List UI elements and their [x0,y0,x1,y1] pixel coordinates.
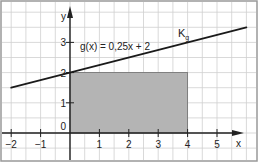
y-tick-label: 0 [60,121,66,132]
y-tick-label: 1 [60,98,66,109]
y-tick-label: 3 [60,37,66,48]
shaded-rectangle [70,73,188,133]
x-tick-label: 2 [126,139,132,150]
x-tick-label: 5 [214,139,220,150]
y-tick-label: 2 [60,68,66,79]
x-tick-label: 4 [185,139,191,150]
x-axis-label: x [236,138,241,149]
x-tick-label: −1 [35,139,47,150]
function-label: g(x) = 0,25x + 2 [80,41,150,52]
x-tick-label: 1 [97,139,103,150]
x-tick-label: −2 [5,139,17,150]
x-tick-label: 3 [155,139,161,150]
y-axis-label: y [61,11,66,22]
function-graph: −2−1123450123 y x g(x) = 0,25x + 2 Kg [0,0,258,162]
